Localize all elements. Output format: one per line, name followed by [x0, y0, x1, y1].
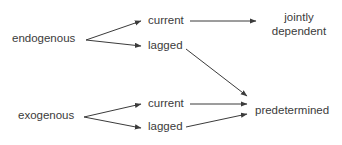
node-endogenous-current: current: [148, 14, 198, 28]
node-endogenous-lagged: lagged: [148, 39, 198, 53]
node-exogenous-current: current: [148, 97, 198, 111]
edge-exogenous-to-lagged: [84, 117, 141, 128]
edge-endogenous-to-current: [86, 21, 141, 40]
node-predetermined: predetermined: [255, 104, 341, 118]
node-jointly-dependent: jointly dependent: [258, 11, 340, 38]
edge-endogenous-to-lagged: [86, 40, 141, 46]
node-exogenous: exogenous: [18, 109, 88, 123]
variable-classification-diagram: endogenous exogenous current lagged curr…: [0, 0, 342, 145]
edge-lagged-to-predetermined: [186, 49, 247, 96]
node-exogenous-lagged: lagged: [148, 120, 198, 134]
node-endogenous: endogenous: [12, 32, 82, 46]
edge-exogenous-to-current: [84, 104, 141, 117]
